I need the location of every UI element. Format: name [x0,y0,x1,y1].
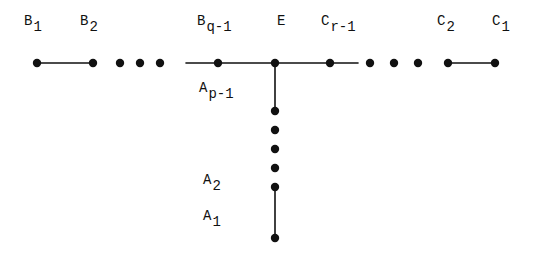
node-label-b2-base: B [80,13,88,29]
node-label-b2: B2 [80,14,97,28]
node-dot-c1 [491,59,499,67]
node-label-a1-base: A [203,208,211,224]
node-dot-a2 [271,183,279,191]
node-dot-a1 [271,234,279,242]
ellipsis-dot-bottom-branch-2 [271,145,279,153]
node-dot-c2 [444,59,452,67]
node-dot-ap1 [271,107,279,115]
node-label-ap1-subscript: p-1 [208,86,233,102]
node-label-c2-base: C [437,13,445,29]
diagram-canvas [0,0,543,256]
node-label-ap1-base: A [199,80,207,96]
node-label-c1-base: C [492,13,500,29]
node-label-b1: B1 [24,14,41,28]
node-label-c1: C1 [492,14,509,28]
ellipsis-dot-right-branch-3 [414,59,422,67]
node-label-cr1: Cr-1 [321,14,355,28]
node-dot-cr1 [326,59,334,67]
node-label-b2-subscript: 2 [89,19,97,35]
node-dot-e [271,59,279,67]
node-label-cr1-subscript: r-1 [330,19,355,35]
node-label-c1-subscript: 1 [501,19,509,35]
node-label-a1-subscript: 1 [212,214,220,230]
node-label-bq1-subscript: q-1 [206,19,231,35]
node-label-a2: A2 [203,173,220,187]
node-label-a2-subscript: 2 [212,178,220,194]
node-dot-b2 [89,59,97,67]
node-label-b1-base: B [24,13,32,29]
tree-diagram-figure: B1 B2 Bq-1 E Cr-1 C2 C1 Ap-1 A2 A1 [0,0,543,256]
node-label-a1: A1 [203,209,220,223]
ellipsis-dot-left-branch-3 [156,59,164,67]
node-label-ap1: Ap-1 [199,81,233,95]
node-label-c2-subscript: 2 [446,19,454,35]
node-label-c2: C2 [437,14,454,28]
ellipsis-dot-right-branch-1 [366,59,374,67]
node-label-cr1-base: C [321,13,329,29]
node-dot-bq1 [214,59,222,67]
node-label-e-base: E [277,13,285,29]
node-label-bq1-base: B [197,13,205,29]
ellipsis-dot-right-branch-2 [390,59,398,67]
ellipsis-dot-bottom-branch-1 [271,126,279,134]
ellipsis-dot-bottom-branch-3 [271,164,279,172]
node-label-a2-base: A [203,172,211,188]
node-label-e: E [277,14,285,28]
ellipsis-dot-left-branch-1 [116,59,124,67]
ellipsis-dot-left-branch-2 [136,59,144,67]
node-label-b1-subscript: 1 [33,19,41,35]
node-dot-b1 [33,59,41,67]
node-label-bq1: Bq-1 [197,14,231,28]
